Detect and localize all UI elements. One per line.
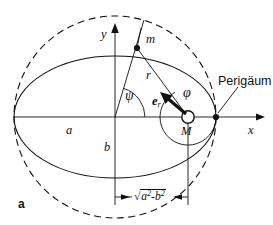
y-axis-arrowhead xyxy=(111,23,119,33)
radius-label: r xyxy=(146,69,151,82)
central-body-label: M xyxy=(181,125,191,138)
x-axis-label: x xyxy=(248,124,254,137)
orbit-diagram-figure: y x m r M a b ψ φ er Perigäum √a2-b2 a xyxy=(0,0,273,225)
angle-phi-label: φ xyxy=(183,86,191,100)
perigee-point-marker xyxy=(213,114,219,120)
radicand-b-exponent: 2 xyxy=(161,189,165,198)
angle-psi-label: ψ xyxy=(125,89,134,103)
semi-major-label: a xyxy=(66,124,72,137)
unit-vector-er-label: er xyxy=(152,95,161,108)
panel-label: a xyxy=(18,198,25,210)
x-axis-arrowhead xyxy=(256,114,265,121)
perigee-leader-line xyxy=(218,87,238,113)
mass-point-marker xyxy=(134,45,140,51)
radicand-group: a2-b2 xyxy=(140,189,165,202)
y-axis-label: y xyxy=(101,28,107,41)
semi-minor-label: b xyxy=(104,141,110,154)
mass-point-label: m xyxy=(146,33,155,46)
dimension-value-label: √a2-b2 xyxy=(134,190,166,202)
dimension-arrowhead-left xyxy=(121,194,130,200)
unit-vector-er-subscript: r xyxy=(158,99,161,109)
perigee-label: Perigäum xyxy=(218,75,272,88)
